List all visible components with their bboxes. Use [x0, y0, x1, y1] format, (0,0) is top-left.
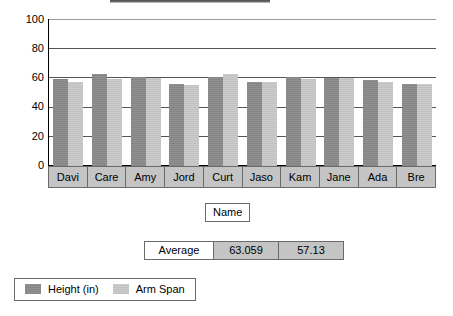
x-axis-title-box: Name [205, 203, 250, 222]
average-arm-span-value: 57.13 [279, 242, 343, 259]
bar-arm-span [262, 82, 277, 170]
x-axis-title-label: Name [213, 206, 242, 218]
bar-arm-span [107, 79, 122, 170]
bar-group [243, 24, 282, 170]
x-axis-category-label: Kam [281, 167, 320, 187]
y-axis-tick-labels: 100 80 60 40 20 0 [18, 14, 44, 169]
x-axis-category-label: Jord [165, 167, 204, 187]
legend-item-height: Height (in) [25, 283, 99, 295]
bar-arm-span [223, 74, 238, 170]
bar-group [320, 24, 359, 170]
average-row-label: Average [145, 242, 214, 259]
average-table: Average 63.059 57.13 [144, 241, 344, 260]
x-axis-category-label: Jaso [243, 167, 282, 187]
bar-group [397, 24, 436, 170]
bar-arm-span [146, 78, 161, 170]
chart-plot-area: 100 80 60 40 20 0 [18, 14, 438, 169]
x-axis-category-label: Amy [126, 167, 165, 187]
chart-page: 100 80 60 40 20 0 DaviCareAmyJordCurtJas… [0, 0, 453, 316]
y-axis-tick-0: 0 [18, 160, 44, 171]
bar-group [165, 24, 204, 170]
y-axis-tick-40: 40 [18, 101, 44, 112]
x-axis-category-label: Jane [320, 167, 359, 187]
bar-arm-span [184, 85, 199, 170]
legend-item-arm-span: Arm Span [113, 283, 185, 295]
bar-height [286, 77, 301, 170]
bar-height [402, 84, 417, 170]
bar-height [53, 79, 68, 170]
bar-arm-span [378, 82, 393, 170]
y-axis-tick-80: 80 [18, 43, 44, 54]
bar-group [49, 24, 88, 170]
bar-height [131, 77, 146, 170]
y-axis-tick-20: 20 [18, 131, 44, 142]
x-axis-category-label: Care [88, 167, 127, 187]
average-height-value: 63.059 [214, 242, 279, 259]
bar-series-container [49, 24, 436, 170]
bar-height [169, 84, 184, 170]
legend-label-arm-span: Arm Span [136, 283, 185, 295]
bar-group [359, 24, 398, 170]
truncated-title-bar [110, 0, 270, 3]
bar-height [324, 78, 339, 170]
x-axis-category-label: Bre [397, 167, 435, 187]
bar-arm-span [68, 82, 83, 170]
gridline-100 [49, 19, 436, 20]
bar-arm-span [339, 78, 354, 170]
x-axis-category-label: Curt [204, 167, 243, 187]
bar-arm-span [417, 84, 432, 170]
bar-height [363, 80, 378, 170]
bar-group [281, 24, 320, 170]
bar-height [247, 82, 262, 170]
plot-canvas [48, 19, 436, 170]
legend-swatch-arm-span-icon [113, 284, 129, 294]
bar-group [88, 24, 127, 170]
x-axis-category-label: Ada [359, 167, 398, 187]
bar-group [126, 24, 165, 170]
bar-height [208, 77, 223, 170]
chart-legend: Height (in) Arm Span [14, 278, 196, 301]
bar-height [92, 74, 107, 170]
bar-arm-span [301, 79, 316, 170]
y-axis-tick-60: 60 [18, 72, 44, 83]
x-axis-category-label: Davi [49, 167, 88, 187]
legend-label-height: Height (in) [48, 283, 99, 295]
legend-swatch-height-icon [25, 284, 41, 294]
bar-group [204, 24, 243, 170]
x-axis-category-band: DaviCareAmyJordCurtJasoKamJaneAdaBre [48, 166, 436, 188]
y-axis-tick-100: 100 [18, 14, 44, 25]
